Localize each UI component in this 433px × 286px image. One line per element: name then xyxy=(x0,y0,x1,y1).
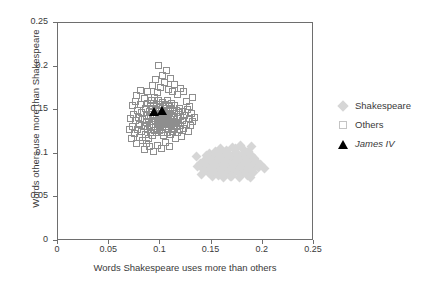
legend-item-label: Shakespeare xyxy=(355,100,411,111)
data-point-others xyxy=(141,146,148,153)
data-point-others xyxy=(169,118,176,125)
x-axis-tick-label: 0.1 xyxy=(139,244,179,254)
data-point-shakespeare xyxy=(220,162,230,172)
data-point-shakespeare xyxy=(246,172,256,182)
data-point-others xyxy=(136,121,143,128)
data-point-others xyxy=(148,97,155,104)
data-point-shakespeare xyxy=(196,170,206,180)
data-point-shakespeare xyxy=(230,166,240,176)
data-point-others xyxy=(153,101,160,108)
data-point-shakespeare xyxy=(211,165,221,175)
legend-item-label: James IV xyxy=(355,138,395,149)
data-point-others xyxy=(170,114,177,121)
y-axis-tick xyxy=(53,240,57,241)
data-point-others xyxy=(171,126,178,133)
legend-item-label: Others xyxy=(355,119,384,130)
legend-item[interactable]: Others xyxy=(336,115,432,134)
data-point-shakespeare xyxy=(220,156,230,166)
x-axis-tick-label: 0.25 xyxy=(293,244,333,254)
data-point-shakespeare xyxy=(225,172,235,182)
data-point-shakespeare xyxy=(198,165,208,175)
data-point-shakespeare xyxy=(204,168,214,178)
y-axis-tick xyxy=(53,22,57,23)
data-point-others xyxy=(138,109,145,116)
y-axis-tick-label: 0.2 xyxy=(0,60,48,70)
y-axis-tick-label: 0.15 xyxy=(0,103,48,113)
data-point-others xyxy=(148,124,155,131)
data-point-others xyxy=(148,118,155,125)
data-point-shakespeare xyxy=(236,170,246,180)
data-point-others xyxy=(159,99,166,106)
data-point-others xyxy=(141,95,148,102)
data-point-others xyxy=(176,126,183,133)
data-point-shakespeare xyxy=(212,147,222,157)
data-point-shakespeare xyxy=(195,158,205,168)
data-point-shakespeare xyxy=(227,143,237,153)
diamond-icon-glyph xyxy=(337,100,348,111)
data-point-others xyxy=(157,84,164,91)
data-point-others xyxy=(128,135,135,142)
data-point-others xyxy=(173,107,180,114)
data-point-others xyxy=(144,100,151,107)
data-point-others xyxy=(163,108,170,115)
data-point-shakespeare xyxy=(226,172,236,182)
data-point-others xyxy=(169,88,176,95)
data-point-shakespeare xyxy=(199,158,209,168)
data-point-shakespeare xyxy=(254,163,264,173)
data-point-others xyxy=(156,111,163,118)
data-point-others xyxy=(174,91,181,98)
data-point-others xyxy=(138,128,145,135)
data-point-shakespeare xyxy=(218,170,228,180)
data-point-others xyxy=(149,82,156,89)
data-point-shakespeare xyxy=(210,159,220,169)
data-point-others xyxy=(162,101,169,108)
data-point-others xyxy=(158,108,165,115)
data-point-shakespeare xyxy=(248,158,258,168)
legend-item[interactable]: James IV xyxy=(336,134,432,153)
data-point-others xyxy=(163,67,170,74)
data-point-others xyxy=(170,122,177,129)
y-axis-tick-label: 0 xyxy=(0,234,48,244)
data-point-others xyxy=(185,128,192,135)
data-point-others xyxy=(151,111,158,118)
data-point-shakespeare xyxy=(223,159,233,169)
data-point-others xyxy=(168,123,175,130)
data-point-shakespeare xyxy=(233,168,243,178)
data-point-shakespeare xyxy=(227,163,237,173)
data-point-shakespeare xyxy=(241,151,251,161)
data-point-others xyxy=(147,129,154,136)
data-point-others xyxy=(162,139,169,146)
data-point-others xyxy=(132,117,139,124)
data-point-shakespeare xyxy=(251,160,261,170)
data-point-shakespeare xyxy=(215,167,225,177)
data-point-others xyxy=(165,107,172,114)
data-point-others xyxy=(132,98,139,105)
y-axis-tick xyxy=(53,153,57,154)
data-point-others xyxy=(156,127,163,134)
data-point-others xyxy=(168,112,175,119)
data-point-others xyxy=(153,113,160,120)
data-point-others xyxy=(162,126,169,133)
data-point-shakespeare xyxy=(216,151,226,161)
data-point-others xyxy=(150,115,157,122)
data-point-shakespeare xyxy=(232,155,242,165)
data-point-others xyxy=(177,85,184,92)
data-point-shakespeare xyxy=(237,160,247,170)
data-point-others xyxy=(171,81,178,88)
data-point-others xyxy=(154,125,161,132)
data-point-others xyxy=(163,123,170,130)
legend-item[interactable]: Shakespeare xyxy=(336,96,432,115)
data-point-others xyxy=(137,101,144,108)
data-point-shakespeare xyxy=(238,144,248,154)
data-point-others xyxy=(154,108,161,115)
data-point-james-iv xyxy=(149,107,159,116)
data-point-others xyxy=(178,133,185,140)
data-point-others xyxy=(179,117,186,124)
data-point-shakespeare xyxy=(219,150,229,160)
data-point-others xyxy=(167,105,174,112)
data-point-others xyxy=(167,131,174,138)
data-point-shakespeare xyxy=(207,163,217,173)
data-point-others xyxy=(151,94,158,101)
data-point-others xyxy=(152,76,159,83)
data-point-shakespeare xyxy=(231,148,241,158)
